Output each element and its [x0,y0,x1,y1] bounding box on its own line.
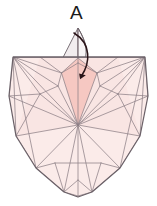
mesh-diagram-svg [0,0,157,206]
vertex-label-a: A [70,3,83,22]
figure-root: A [0,0,157,206]
